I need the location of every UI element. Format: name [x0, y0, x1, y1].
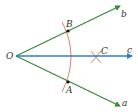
- label-point-a: A: [65, 85, 73, 95]
- angle-bisector-diagram: O B A C c b a: [0, 0, 138, 112]
- intersection-mark-c: [91, 51, 101, 63]
- label-ray-c: c: [127, 45, 132, 55]
- label-ray-a: a: [122, 98, 127, 108]
- label-point-b: B: [65, 19, 73, 29]
- point-a: [66, 80, 69, 83]
- label-vertex-o: O: [6, 51, 14, 61]
- point-b: [66, 29, 69, 32]
- label-point-c: C: [101, 46, 108, 56]
- label-ray-b: b: [121, 9, 127, 19]
